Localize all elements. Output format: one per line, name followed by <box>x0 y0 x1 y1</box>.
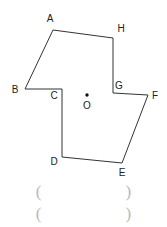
answer-close-paren: ) <box>126 205 132 222</box>
vertex-label-g: G <box>115 81 123 91</box>
geometry-figure: AHGFEDCB O ()() <box>0 0 167 227</box>
vertex-label-c: C <box>50 91 57 101</box>
answer-row[interactable]: () <box>0 203 167 223</box>
vertex-label-b: B <box>12 85 19 95</box>
center-point-dot <box>85 93 88 96</box>
vertex-label-a: A <box>47 14 54 24</box>
answer-open-paren: ( <box>36 205 42 222</box>
vertex-label-e: E <box>119 168 126 178</box>
center-point-label: O <box>83 101 91 111</box>
answer-row[interactable]: () <box>0 181 167 201</box>
answer-open-paren: ( <box>36 183 42 200</box>
vertex-label-d: D <box>50 157 57 167</box>
answer-close-paren: ) <box>126 183 132 200</box>
vertex-label-h: H <box>117 24 124 34</box>
vertex-label-f: F <box>152 91 158 101</box>
